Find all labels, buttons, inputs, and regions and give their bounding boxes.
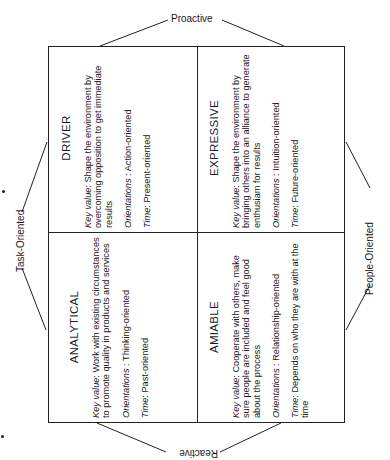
orientations-text: Orientations : Thinking-oriented — [121, 236, 131, 418]
scan-artifact-dot — [2, 190, 5, 193]
axis-label-task-oriented: Task-Oriented — [15, 210, 26, 272]
scan-artifact-dot — [1, 435, 4, 438]
time-text: Time: Present-oriented — [142, 48, 152, 228]
quadrant-title: DRIVER — [60, 48, 73, 228]
orientations-text: Orientations : Relationship-oriented — [271, 236, 281, 418]
time-text: Time: Past-oriented — [140, 236, 150, 418]
axis-label-proactive: Proactive — [171, 13, 213, 24]
quadrant-amiable: AMIABLE Key value: Cooperate with others… — [208, 236, 311, 418]
key-value-text: Key value: Work with existing circumstan… — [91, 236, 112, 418]
quadrant-title: ANALYTICAL — [68, 236, 81, 418]
quadrant-title: EXPRESSIVE — [208, 48, 221, 228]
quadrant-analytical: ANALYTICAL Key value: Work with existing… — [68, 236, 150, 418]
orientations-text: Orientations : Intuition-oriented — [271, 48, 281, 228]
vertical-divider — [197, 46, 198, 423]
quadrant-expressive: EXPRESSIVE Key value: Shape the environm… — [208, 48, 300, 228]
key-value-text: Key value: Cooperate with others, make s… — [231, 236, 262, 418]
quadrant-title: AMIABLE — [208, 236, 221, 418]
axis-label-reactive: Reactive — [179, 448, 218, 459]
time-text: Time: Future-oriented — [290, 48, 300, 228]
key-value-text: Key value: Shape the environment by brin… — [231, 48, 262, 228]
time-text: Time: Depends on who they are with at th… — [290, 236, 311, 418]
horizontal-divider — [48, 232, 345, 233]
key-value-text: Key value: Shape the environment by over… — [83, 48, 114, 228]
axis-label-people-oriented: People-Oriented — [364, 222, 375, 295]
quadrant-driver: DRIVER Key value: Shape the environment … — [60, 48, 152, 228]
orientations-text: Orientations : Action-oriented — [123, 48, 133, 228]
